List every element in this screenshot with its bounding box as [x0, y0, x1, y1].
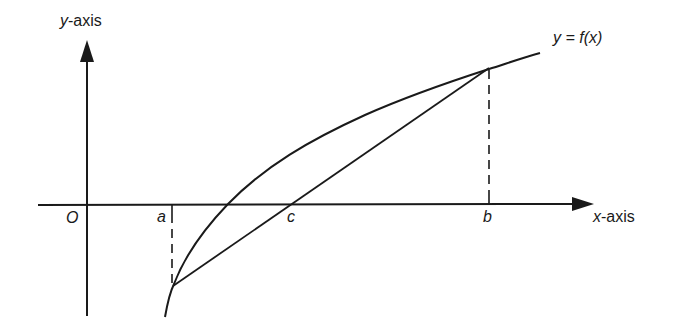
curve-f [165, 53, 540, 317]
x-axis-label: x-axis [593, 209, 635, 225]
x-axis-line [38, 204, 575, 205]
x-axis-var: x [593, 208, 601, 225]
chord-ab [173, 68, 489, 286]
x-axis-arrow-icon [572, 197, 594, 211]
origin-label: O [66, 210, 78, 226]
curve-equation: y = f(x) [553, 29, 602, 46]
point-b-label: b [483, 209, 492, 225]
x-axis-suffix: -axis [601, 208, 635, 225]
y-axis-suffix: -axis [68, 12, 102, 29]
curve-label: y = f(x) [553, 30, 602, 46]
point-a-label: a [157, 209, 166, 225]
y-axis-var: y [60, 12, 68, 29]
y-axis-label: y-axis [60, 13, 102, 29]
y-axis-arrow-icon [80, 40, 94, 62]
diagram-canvas [0, 0, 676, 335]
point-c-label: c [287, 209, 295, 225]
